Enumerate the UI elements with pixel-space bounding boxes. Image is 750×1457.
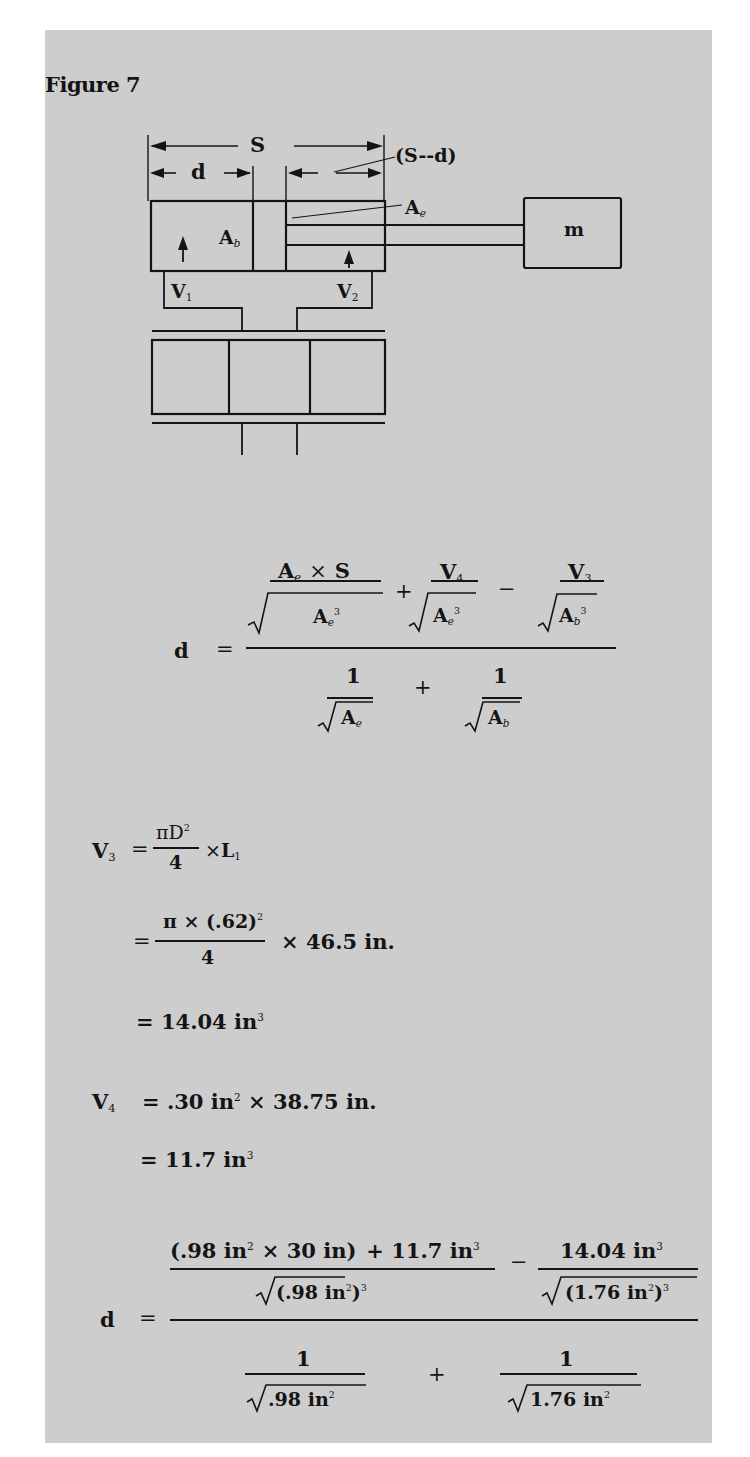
numeric-bottom2-den: 1.76 in2 <box>530 1390 610 1409</box>
sqrt-icon <box>0 0 750 1457</box>
